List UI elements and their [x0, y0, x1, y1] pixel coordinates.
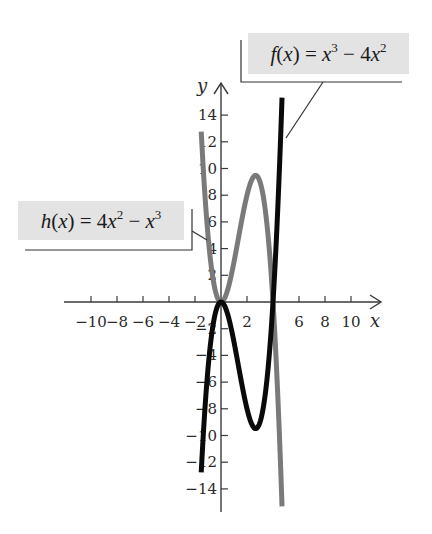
f-func-name: f [270, 42, 276, 66]
y-tick-label: 14 [198, 106, 217, 124]
f-label: f(x) = x3 − 4x2 [248, 33, 409, 74]
h-var: x [58, 209, 67, 233]
h-term1: x [107, 209, 116, 233]
f-operator: − [343, 42, 355, 66]
h-exp2: 3 [155, 207, 162, 222]
f-equals: = [305, 42, 317, 66]
f-exp1: 3 [331, 40, 338, 55]
f-term2: x [371, 42, 380, 66]
plot-area: xy −10−8−6−4−2268101412108642−2−4−6−8−10… [0, 0, 432, 534]
x-tick-label: 6 [294, 313, 304, 331]
x-tick-label: 8 [320, 313, 330, 331]
x-tick-label: 2 [242, 313, 252, 331]
h-coef: 4 [97, 209, 108, 233]
axes: xy [64, 75, 381, 512]
h-func-name: h [41, 209, 52, 233]
y-axis-name: y [196, 75, 208, 96]
f-var: x [283, 42, 292, 66]
f-term1: x [322, 42, 331, 66]
x-tick-label: −8 [106, 313, 128, 331]
h-equals: = [80, 209, 92, 233]
f-exp2: 2 [380, 40, 387, 55]
h-label: h(x) = 4x2 − x3 [18, 201, 184, 240]
f-leader-line [286, 82, 323, 138]
h-term2: x [146, 209, 155, 233]
x-tick-label: 10 [341, 313, 360, 331]
y-tick-label: −14 [185, 480, 217, 498]
x-tick-label: −10 [75, 313, 107, 331]
x-tick-label: −6 [132, 313, 154, 331]
function-graph: xy −10−8−6−4−2268101412108642−2−4−6−8−10… [0, 0, 432, 534]
f-coef: 4 [360, 42, 371, 66]
x-tick-label: −4 [158, 313, 180, 331]
h-operator: − [128, 209, 140, 233]
x-axis-name: x [370, 310, 380, 331]
y-tick-label: −4 [195, 346, 217, 364]
y-tick-label: 8 [207, 186, 217, 204]
h-exp1: 2 [117, 207, 124, 222]
h-leader-line [192, 231, 207, 240]
